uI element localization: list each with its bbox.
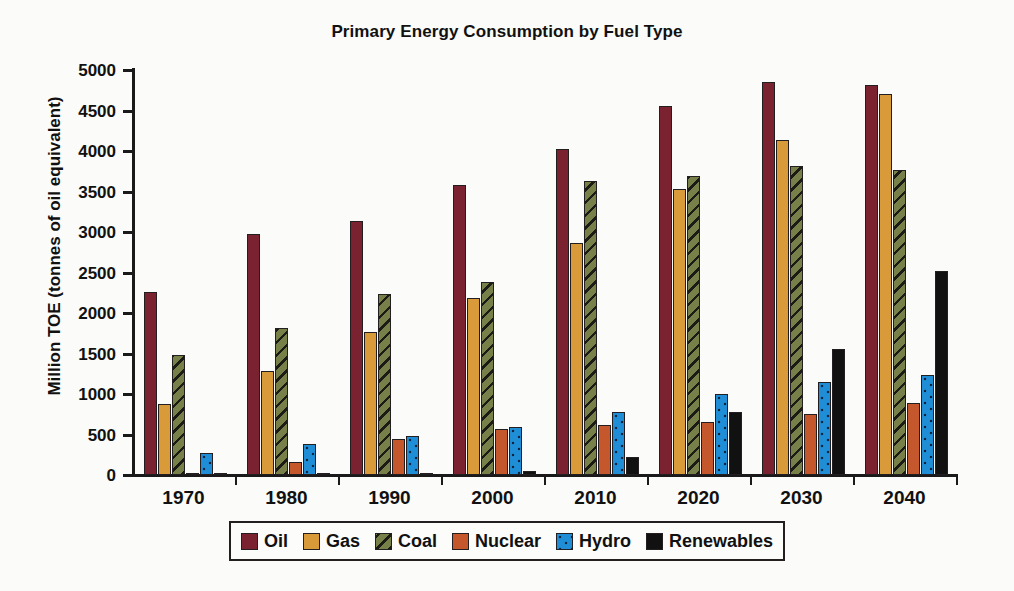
bar-nuclear-2000 <box>495 429 508 475</box>
x-tick-label-2010: 2010 <box>544 487 647 509</box>
x-tick-label-2030: 2030 <box>750 487 853 509</box>
y-tick-label: 1000 <box>28 386 116 403</box>
bar-coal-2040 <box>893 170 906 475</box>
bar-group-1980 <box>247 70 330 475</box>
bar-hydro-2040 <box>921 375 934 475</box>
bar-gas-1970 <box>158 404 171 475</box>
bar-coal-1970 <box>172 355 185 475</box>
legend-swatch-nuclear-icon <box>452 533 469 550</box>
legend-item-oil[interactable]: Oil <box>241 531 288 552</box>
bar-hydro-2000 <box>509 427 522 475</box>
bar-oil-2020 <box>659 106 672 475</box>
legend-item-nuclear[interactable]: Nuclear <box>452 531 541 552</box>
bar-oil-1990 <box>350 221 363 475</box>
bar-coal-1990 <box>378 294 391 475</box>
y-tick-label: 2500 <box>28 265 116 282</box>
bar-group-2030 <box>762 70 845 475</box>
x-tick-label-2020: 2020 <box>647 487 750 509</box>
x-axis-separator <box>853 474 855 485</box>
y-tick-label: 0 <box>28 467 116 484</box>
bar-coal-2000 <box>481 282 494 475</box>
legend-swatch-coal-icon <box>375 533 392 550</box>
x-tick-label-1980: 1980 <box>235 487 338 509</box>
bar-gas-2030 <box>776 140 789 475</box>
bar-nuclear-2020 <box>701 422 714 475</box>
bar-hydro-2020 <box>715 394 728 475</box>
bar-renewables-1980 <box>317 473 330 475</box>
x-tick-label-1970: 1970 <box>132 487 235 509</box>
bar-renewables-1990 <box>420 473 433 475</box>
bar-group-2020 <box>659 70 742 475</box>
bar-oil-1970 <box>144 292 157 475</box>
bar-nuclear-2010 <box>598 425 611 475</box>
bar-gas-2040 <box>879 94 892 475</box>
legend-item-coal[interactable]: Coal <box>375 531 437 552</box>
bar-hydro-2010 <box>612 412 625 475</box>
page-title: Primary Energy Consumption by Fuel Type <box>0 22 1014 42</box>
bar-oil-2010 <box>556 149 569 475</box>
bar-renewables-1970 <box>214 473 227 475</box>
legend-swatch-renewables-icon <box>646 533 663 550</box>
x-tick-label-1990: 1990 <box>338 487 441 509</box>
bar-group-1990 <box>350 70 433 475</box>
bar-nuclear-1980 <box>289 462 302 475</box>
bar-nuclear-1970 <box>186 473 199 475</box>
bar-oil-1980 <box>247 234 260 475</box>
bar-chart: Primary Energy Consumption by Fuel Type … <box>0 0 1014 591</box>
y-tick-label: 500 <box>28 427 116 444</box>
y-tick-label: 1500 <box>28 346 116 363</box>
legend-item-gas[interactable]: Gas <box>303 531 360 552</box>
bar-hydro-1980 <box>303 444 316 475</box>
bar-coal-2030 <box>790 166 803 475</box>
legend-item-renewables[interactable]: Renewables <box>646 531 773 552</box>
bar-renewables-2020 <box>729 412 742 475</box>
bar-nuclear-2030 <box>804 414 817 475</box>
y-tick-label: 4500 <box>28 103 116 120</box>
bar-oil-2030 <box>762 82 775 475</box>
bar-group-2010 <box>556 70 639 475</box>
bar-renewables-2030 <box>832 349 845 475</box>
bar-hydro-1970 <box>200 453 213 475</box>
x-tick-label-2000: 2000 <box>441 487 544 509</box>
legend-label-renewables: Renewables <box>669 531 773 552</box>
x-axis-separator <box>235 474 237 485</box>
bar-coal-2010 <box>584 181 597 475</box>
x-axis-separator <box>750 474 752 485</box>
bar-gas-1990 <box>364 332 377 475</box>
plot-area <box>132 70 956 475</box>
bar-hydro-1990 <box>406 436 419 475</box>
legend-label-oil: Oil <box>264 531 288 552</box>
bar-gas-2010 <box>570 243 583 475</box>
bar-group-2000 <box>453 70 536 475</box>
y-tick-label: 2000 <box>28 305 116 322</box>
bar-group-2040 <box>865 70 948 475</box>
bar-gas-1980 <box>261 371 274 475</box>
x-axis-separator <box>956 474 958 485</box>
y-tick-label: 5000 <box>28 62 116 79</box>
legend-swatch-hydro-icon <box>556 533 573 550</box>
y-tick-label: 3000 <box>28 224 116 241</box>
bar-renewables-2040 <box>935 271 948 475</box>
bar-coal-1980 <box>275 328 288 475</box>
bar-hydro-2030 <box>818 382 831 475</box>
bar-oil-2040 <box>865 85 878 475</box>
chart-legend: OilGasCoalNuclearHydroRenewables <box>229 521 785 561</box>
bar-renewables-2000 <box>523 471 536 475</box>
legend-label-gas: Gas <box>326 531 360 552</box>
legend-label-nuclear: Nuclear <box>475 531 541 552</box>
y-tick-label: 3500 <box>28 184 116 201</box>
bar-oil-2000 <box>453 185 466 475</box>
legend-item-hydro[interactable]: Hydro <box>556 531 631 552</box>
bar-gas-2020 <box>673 189 686 475</box>
x-axis-separator <box>441 474 443 485</box>
legend-swatch-oil-icon <box>241 533 258 550</box>
x-axis-separator <box>338 474 340 485</box>
bar-gas-2000 <box>467 298 480 475</box>
bar-nuclear-1990 <box>392 439 405 475</box>
x-axis-separator <box>544 474 546 485</box>
legend-swatch-gas-icon <box>303 533 320 550</box>
y-tick-label: 4000 <box>28 143 116 160</box>
bar-coal-2020 <box>687 176 700 475</box>
x-axis-separator <box>647 474 649 485</box>
bar-renewables-2010 <box>626 457 639 475</box>
